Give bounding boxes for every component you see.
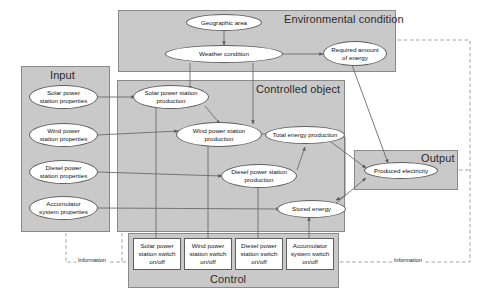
node-solar-power-station-production-line2: production — [145, 97, 198, 105]
switch-wind-power-station[interactable]: Wind power station switch on/off — [184, 238, 232, 270]
switch-wind-line2: station switch — [189, 250, 226, 257]
node-accumulator-system-properties[interactable]: Accumulator system properties — [29, 196, 98, 220]
node-stored-energy-label: Stored energy — [292, 205, 331, 213]
node-produced-electricity[interactable]: Produced electricity — [364, 162, 438, 179]
node-diesel-power-station-production-line1: Diesel power station — [231, 168, 287, 176]
node-weather-condition[interactable]: Weather condition — [165, 45, 283, 63]
label-information-right: Information — [392, 257, 424, 263]
label-information-left: Information — [76, 257, 108, 263]
switch-solar-line2: station switch — [138, 250, 175, 257]
node-required-amount-of-energy-line1: Required amount — [331, 46, 378, 54]
switch-accumulator-line2: system switch — [291, 250, 330, 257]
node-accumulator-system-properties-line1: Accumulator — [39, 200, 88, 208]
switch-wind-line1: Wind power — [192, 242, 225, 249]
node-wind-power-station-properties[interactable]: Wind power station properties — [29, 123, 98, 147]
diagram-canvas: Environmental condition Input Controlled… — [0, 0, 489, 300]
node-solar-power-station-properties-line1: Solar power — [40, 89, 87, 97]
switch-solar-line1: Solar power — [140, 242, 173, 249]
switch-wind-line3: on/off — [200, 258, 215, 265]
node-stored-energy[interactable]: Stored energy — [277, 200, 346, 218]
node-total-energy-production[interactable]: Total energy production — [265, 126, 345, 144]
switch-diesel-line1: Diesel power — [241, 242, 277, 249]
switch-accumulator-line1: Accumulator — [293, 242, 327, 249]
switch-accumulator-line3: on/off — [302, 258, 317, 265]
switch-solar-power-station[interactable]: Solar power station switch on/off — [133, 238, 181, 270]
switch-diesel-power-station[interactable]: Diesel power station switch on/off — [235, 238, 283, 270]
node-total-energy-production-label: Total energy production — [273, 131, 337, 139]
node-wind-power-station-production[interactable]: Wind power station production — [176, 122, 262, 147]
group-title-environmental-condition: Environmental condition — [284, 13, 404, 25]
switch-solar-line3: on/off — [149, 258, 164, 265]
node-produced-electricity-label: Produced electricity — [374, 167, 428, 175]
node-solar-power-station-production[interactable]: Solar power station production — [133, 85, 209, 109]
node-wind-power-station-properties-line1: Wind power — [40, 127, 87, 135]
node-solar-power-station-properties-line2: station properties — [40, 97, 87, 105]
switch-diesel-line2: station switch — [240, 250, 277, 257]
node-required-amount-of-energy[interactable]: Required amount of energy — [323, 41, 387, 66]
node-weather-condition-label: Weather condition — [199, 50, 249, 58]
node-wind-power-station-properties-line2: station properties — [40, 135, 87, 143]
node-geographic-area[interactable]: Geographic area — [186, 14, 262, 31]
node-solar-power-station-properties[interactable]: Solar power station properties — [29, 85, 98, 109]
node-diesel-power-station-properties-line1: Diesel power — [40, 164, 87, 172]
group-title-controlled-object: Controlled object — [256, 83, 340, 95]
switch-accumulator-system[interactable]: Accumulator system switch on/off — [286, 238, 334, 270]
node-wind-power-station-production-line2: production — [193, 135, 246, 143]
node-geographic-area-label: Geographic area — [201, 19, 247, 27]
node-diesel-power-station-properties-line2: station properties — [40, 172, 87, 180]
node-solar-power-station-production-line1: Solar power station — [145, 89, 198, 97]
node-required-amount-of-energy-line2: of energy — [331, 54, 378, 62]
group-title-input: Input — [50, 69, 75, 81]
node-diesel-power-station-production-line2: production — [231, 176, 287, 184]
node-accumulator-system-properties-line2: system properties — [39, 208, 88, 216]
node-diesel-power-station-production[interactable]: Diesel power station production — [221, 164, 297, 188]
group-title-control: Control — [210, 273, 246, 285]
switch-diesel-line3: on/off — [251, 258, 266, 265]
node-diesel-power-station-properties[interactable]: Diesel power station properties — [29, 160, 98, 184]
group-title-output: Output — [421, 152, 455, 164]
node-wind-power-station-production-line1: Wind power station — [193, 127, 246, 135]
